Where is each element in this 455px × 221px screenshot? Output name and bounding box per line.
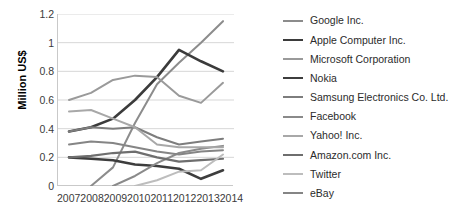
x-axis-tick-label: 2014 <box>220 193 243 213</box>
x-axis-tick-label: 2008 <box>80 193 103 213</box>
legend-item-label: Samsung Electronics Co. Ltd. <box>310 92 448 103</box>
legend-color-swatch <box>283 116 303 118</box>
legend-color-swatch <box>283 58 303 60</box>
plot-area <box>57 14 233 186</box>
y-axis-tick-label: 0.2 <box>20 152 54 163</box>
line-chart: Million US$ 1.210.80.60.40.20 2007200820… <box>0 0 455 221</box>
x-axis-tick-labels: 20072008200920102011201220132014 <box>57 193 233 213</box>
series-line <box>69 50 223 132</box>
legend-item[interactable]: Facebook <box>283 107 455 126</box>
legend-item-label: Yahoo! Inc. <box>310 130 362 141</box>
legend-item[interactable]: Samsung Electronics Co. Ltd. <box>283 88 455 107</box>
legend-color-swatch <box>283 96 303 98</box>
x-axis-tick-label: 2013 <box>196 193 219 213</box>
x-axis-tick-label: 2009 <box>104 193 127 213</box>
y-axis-tick-labels: 1.210.80.60.40.20 <box>16 0 54 221</box>
legend-item[interactable]: Twitter <box>283 165 455 184</box>
legend-color-swatch <box>283 77 303 79</box>
legend: Google Inc.Apple Computer Inc.Microsoft … <box>283 11 455 203</box>
x-axis-tick-label: 2011 <box>150 193 173 213</box>
y-axis-tick-label: 0.8 <box>20 66 54 77</box>
legend-color-swatch <box>283 154 303 156</box>
series-canvas <box>58 14 234 186</box>
y-axis-tick-label: 0.6 <box>20 95 54 106</box>
legend-item[interactable]: Nokia <box>283 69 455 88</box>
legend-item-label: Apple Computer Inc. <box>310 35 406 46</box>
y-axis-tick-label: 0 <box>20 181 54 192</box>
x-axis-tick-label: 2010 <box>127 193 150 213</box>
y-axis-tick-label: 1 <box>20 38 54 49</box>
legend-item-label: Twitter <box>310 169 341 180</box>
x-axis-tick-label: 2007 <box>57 193 80 213</box>
y-axis-tick-label: 0.4 <box>20 124 54 135</box>
x-axis-tick-label: 2012 <box>173 193 196 213</box>
legend-color-swatch <box>283 135 303 137</box>
legend-item-label: Amazon.com Inc. <box>310 150 391 161</box>
legend-item-label: Facebook <box>310 111 356 122</box>
legend-item[interactable]: Apple Computer Inc. <box>283 30 455 49</box>
legend-item[interactable]: Amazon.com Inc. <box>283 145 455 164</box>
legend-item[interactable]: Microsoft Corporation <box>283 49 455 68</box>
legend-color-swatch <box>283 173 303 175</box>
legend-item[interactable]: Google Inc. <box>283 11 455 30</box>
legend-color-swatch <box>283 192 303 194</box>
y-axis-tick-label: 1.2 <box>20 9 54 20</box>
legend-item-label: Nokia <box>310 73 337 84</box>
legend-item-label: Google Inc. <box>310 15 364 26</box>
legend-color-swatch <box>283 20 303 22</box>
legend-item[interactable]: Yahoo! Inc. <box>283 126 455 145</box>
legend-item[interactable]: eBay <box>283 184 455 203</box>
legend-item-label: Microsoft Corporation <box>310 54 410 65</box>
legend-color-swatch <box>283 39 303 41</box>
legend-item-label: eBay <box>310 188 334 199</box>
